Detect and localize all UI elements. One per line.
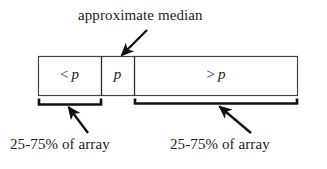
cell-operator-less: < — [60, 66, 71, 82]
caption-right-partition: 25-75% of array — [170, 136, 270, 153]
cell-variable-less: p — [71, 66, 79, 82]
cell-variable-pivot: p — [114, 66, 122, 82]
caption-left-partition: 25-75% of array — [10, 136, 110, 153]
cell-operator-greater: > — [207, 66, 218, 82]
left-caption-arrow — [69, 107, 89, 133]
approximate-median-diagram: approximate median <p p >p — [0, 0, 327, 169]
cell-label-less-than-pivot: <p — [38, 66, 101, 83]
right-caption-arrow — [220, 107, 252, 134]
right-brace — [135, 99, 297, 104]
left-brace — [39, 99, 101, 105]
cell-label-greater-than-pivot: >p — [134, 66, 298, 83]
median-arrow — [122, 30, 148, 56]
cell-variable-greater: p — [218, 66, 226, 82]
cell-label-pivot: p — [101, 66, 134, 83]
